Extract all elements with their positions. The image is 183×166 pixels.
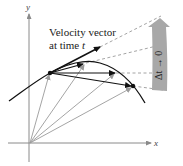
- limit-arrow-band: Δt → 0: [148, 18, 170, 91]
- x-axis-label: x: [153, 138, 158, 148]
- point-at-time-t-plus-dt: [131, 84, 135, 88]
- position-vectors: [30, 65, 131, 143]
- y-axis-label: y: [25, 2, 30, 12]
- point-at-time-t: [48, 71, 52, 75]
- velocity-limit-diagram: x y Δt → 0 Velocity vector at time t: [0, 0, 183, 166]
- velocity-label-line1: Velocity vector: [49, 26, 116, 38]
- limit-label: Δt → 0: [153, 51, 164, 80]
- velocity-label-line2: at time t: [49, 39, 86, 51]
